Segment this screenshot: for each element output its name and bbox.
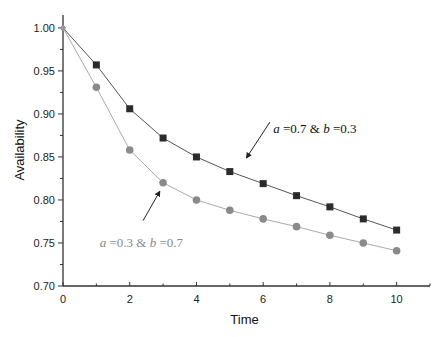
series-line [63,28,397,251]
y-tick-label: 0.95 [34,65,55,77]
data-point-square [293,192,300,199]
availability-chart: 02468100.700.750.800.850.900.951.00 a =0… [0,0,444,337]
y-tick-label: 0.70 [34,280,55,292]
annotation-label: a =0.7 & b =0.3 [273,121,356,136]
data-point-square [360,215,367,222]
data-point-circle [193,196,201,204]
annotation-text: =0.7 [156,235,183,250]
data-point-circle [359,239,367,247]
annotations: a =0.7 & b =0.3a =0.3 & b =0.7 [100,121,357,250]
data-point-square [126,105,133,112]
data-point-circle [126,146,134,154]
annotation-label: a =0.3 & b =0.7 [100,235,184,250]
data-point-square [326,203,333,210]
annotation-text: =0.7 & [280,121,323,136]
y-axis-title: Availability [12,119,27,181]
data-point-square [160,135,167,142]
x-axis-title: Time [230,312,258,327]
data-point-circle [393,247,401,255]
y-tick-label: 1.00 [34,22,55,34]
data-point-square [260,180,267,187]
annotation-2: a =0.3 & b =0.7 [100,191,184,250]
data-point-circle [93,83,101,91]
annotation-1: a =0.7 & b =0.3 [247,121,357,158]
x-tick-label: 4 [193,293,199,305]
y-tick-label: 0.80 [34,194,55,206]
axes: 02468100.700.750.800.850.900.951.00 [34,15,430,305]
series-2 [61,25,401,254]
annotation-text: =0.3 & [106,235,149,250]
y-tick-label: 0.90 [34,108,55,120]
data-point-circle [259,215,267,223]
data-point-circle [293,223,301,231]
data-point-square [226,168,233,175]
data-point-circle [226,206,234,214]
data-point-origin [61,25,66,30]
y-tick-label: 0.75 [34,237,55,249]
x-tick-label: 10 [391,293,403,305]
x-tick-label: 2 [127,293,133,305]
data-point-circle [159,179,167,187]
data-point-square [393,227,400,234]
y-tick-label: 0.85 [34,151,55,163]
series-layer [61,25,401,254]
annotation-arrow [247,122,270,158]
data-point-square [193,153,200,160]
x-tick-label: 0 [60,293,66,305]
x-tick-label: 6 [260,293,266,305]
data-point-circle [326,231,334,239]
annotation-arrow [143,191,160,220]
annotation-text: =0.3 [330,121,357,136]
x-tick-label: 8 [327,293,333,305]
data-point-square [93,61,100,68]
